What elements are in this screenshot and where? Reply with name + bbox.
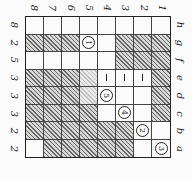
grid-cell-e7[interactable] [44, 70, 62, 88]
grid-cell-e4[interactable] [98, 70, 116, 88]
row-clue: 2 [9, 143, 19, 155]
bar-mark-icon [142, 74, 143, 81]
grid-cell-b5[interactable] [80, 122, 98, 140]
grid-cell-g4[interactable] [98, 35, 116, 53]
row-clue: 2 [9, 125, 19, 137]
grid-cell-b7[interactable] [44, 122, 62, 140]
grid-cell-f2[interactable] [134, 52, 152, 70]
grid-cell-h4[interactable] [98, 17, 116, 35]
grid-cell-c1[interactable] [152, 105, 170, 123]
grid-cell-d7[interactable] [44, 87, 62, 105]
row-letter: e [175, 72, 185, 84]
grid-cell-h5[interactable] [80, 17, 98, 35]
row-clue: 8 [9, 19, 19, 31]
grid-cell-f7[interactable] [44, 52, 62, 70]
grid-cell-h7[interactable] [44, 17, 62, 35]
grid-cell-f3[interactable] [116, 52, 134, 70]
grid-cell-e1[interactable] [152, 70, 170, 88]
grid-cell-c3[interactable]: 4 [116, 105, 134, 123]
grid-cell-e3[interactable] [116, 70, 134, 88]
row-letter: d [175, 90, 185, 102]
grid-cell-g2[interactable] [134, 35, 152, 53]
grid-cell-g3[interactable] [116, 35, 134, 53]
grid-cell-b1[interactable] [152, 122, 170, 140]
row-letter: a [175, 143, 185, 155]
grid-cell-g7[interactable] [44, 35, 62, 53]
puzzle-grid: 15423 [25, 16, 171, 158]
grid-cell-a5[interactable] [80, 140, 98, 158]
circled-number: 5 [100, 89, 113, 102]
grid-cell-f5[interactable] [80, 52, 98, 70]
bar-mark-icon [106, 74, 107, 81]
grid-cell-b3[interactable] [116, 122, 134, 140]
grid-cell-h8[interactable] [26, 17, 44, 35]
circled-number: 4 [118, 106, 131, 119]
grid-cell-f6[interactable] [62, 52, 80, 70]
grid-cell-g5[interactable]: 1 [80, 35, 98, 53]
circled-number: 3 [155, 142, 168, 155]
grid-cell-a4[interactable] [98, 140, 116, 158]
grid-cell-b6[interactable] [62, 122, 80, 140]
grid-cell-c8[interactable] [26, 105, 44, 123]
row-letter: c [175, 108, 185, 120]
grid-cell-d6[interactable] [62, 87, 80, 105]
grid-cell-c5[interactable] [80, 105, 98, 123]
grid-cell-d1[interactable] [152, 87, 170, 105]
column-label: 1 [157, 2, 167, 14]
column-label: 6 [66, 2, 76, 14]
grid-cell-c6[interactable] [62, 105, 80, 123]
row-letter: f [175, 54, 185, 66]
grid-cell-e2[interactable] [134, 70, 152, 88]
grid-cell-d8[interactable] [26, 87, 44, 105]
circled-number: 2 [136, 124, 149, 137]
row-clue: 2 [9, 37, 19, 49]
row-clue: 3 [9, 72, 19, 84]
row-clue: 3 [9, 90, 19, 102]
grid-cell-g6[interactable] [62, 35, 80, 53]
column-label: 3 [120, 2, 130, 14]
column-label: 5 [84, 2, 94, 14]
column-label: 4 [102, 2, 112, 14]
grid-cell-e5[interactable] [80, 70, 98, 88]
grid-cell-a6[interactable] [62, 140, 80, 158]
grid-cell-h6[interactable] [62, 17, 80, 35]
grid-cell-g1[interactable] [152, 35, 170, 53]
grid-cell-d3[interactable] [116, 87, 134, 105]
grid-cell-a1[interactable]: 3 [152, 140, 170, 158]
grid-cell-f8[interactable] [26, 52, 44, 70]
grid-cell-c4[interactable] [98, 105, 116, 123]
grid-cell-e8[interactable] [26, 70, 44, 88]
grid-cell-f1[interactable] [152, 52, 170, 70]
column-label: 2 [139, 2, 149, 14]
bar-mark-icon [124, 74, 125, 81]
grid-cell-e6[interactable] [62, 70, 80, 88]
grid-cell-b2[interactable]: 2 [134, 122, 152, 140]
grid-cell-c7[interactable] [44, 105, 62, 123]
grid-cell-d4[interactable]: 5 [98, 87, 116, 105]
grid-cell-a3[interactable] [116, 140, 134, 158]
column-label: 8 [29, 2, 39, 14]
row-clue: 5 [9, 54, 19, 66]
grid-cell-h3[interactable] [116, 17, 134, 35]
row-letter: g [175, 37, 185, 49]
row-clue: 3 [9, 108, 19, 120]
grid-cell-a7[interactable] [44, 140, 62, 158]
row-letter: b [175, 125, 185, 137]
grid-cell-a2[interactable] [134, 140, 152, 158]
grid-cell-c2[interactable] [134, 105, 152, 123]
grid-cell-d5[interactable] [80, 87, 98, 105]
circled-number: 1 [82, 36, 95, 49]
grid-cell-b8[interactable] [26, 122, 44, 140]
grid-cell-h2[interactable] [134, 17, 152, 35]
grid-cell-h1[interactable] [152, 17, 170, 35]
grid-cell-g8[interactable] [26, 35, 44, 53]
grid-cell-f4[interactable] [98, 52, 116, 70]
column-label: 7 [47, 2, 57, 14]
grid-cell-a8[interactable] [26, 140, 44, 158]
grid-cell-b4[interactable] [98, 122, 116, 140]
row-letter: h [175, 19, 185, 31]
grid-cell-d2[interactable] [134, 87, 152, 105]
